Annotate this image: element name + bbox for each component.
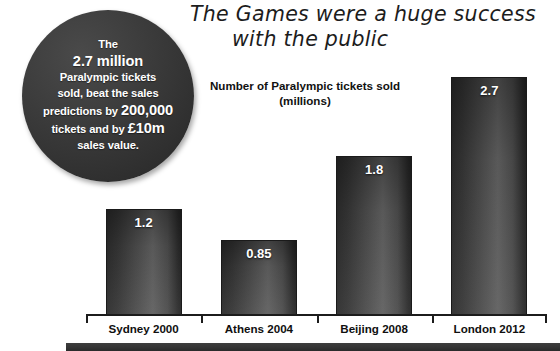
headline: The Games were a huge success with the p… [188, 2, 554, 52]
bar-beijing-2008: 1.8 [336, 156, 412, 315]
infographic-root: The 2.7 million Paralympic tickets sold,… [0, 0, 560, 351]
category-label-athens-2004: Athens 2004 [201, 322, 317, 335]
bar-value-label: 2.7 [452, 83, 526, 98]
bar-shading [452, 78, 526, 314]
headline-line-2: with the public [188, 27, 554, 52]
bar-sydney-2000: 1.2 [106, 209, 182, 315]
bar-london-2012: 2.7 [451, 77, 527, 315]
bar-value-label: 0.85 [222, 246, 296, 261]
bar-value-label: 1.8 [337, 162, 411, 177]
category-label-beijing-2008: Beijing 2008 [316, 322, 432, 335]
badge-line-1: The [43, 37, 173, 52]
bar-athens-2004: 0.85 [221, 240, 297, 315]
bar-shading [337, 157, 411, 314]
bar-chart-plot-area: 1.20.851.82.7 [86, 60, 547, 315]
category-label-sydney-2000: Sydney 2000 [86, 322, 202, 335]
headline-line-1: The Games were a huge success [188, 2, 554, 27]
bar-value-label: 1.2 [107, 215, 181, 230]
category-label-london-2012: London 2012 [431, 322, 547, 335]
bottom-decorative-band [66, 343, 560, 351]
